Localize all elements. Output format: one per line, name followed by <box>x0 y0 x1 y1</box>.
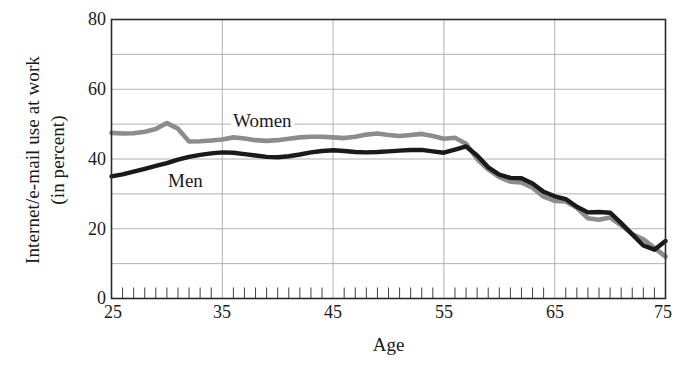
x-tick-label-75: 75 <box>641 303 685 321</box>
x-tick-label-35: 35 <box>200 303 244 321</box>
x-axis-tick-labels: 25 35 45 55 65 75 <box>0 0 686 375</box>
x-tick-label-25: 25 <box>91 303 135 321</box>
x-axis-title: Age <box>111 334 666 356</box>
series-label-women: Women <box>231 110 294 132</box>
x-tick-label-65: 65 <box>533 303 577 321</box>
x-tick-label-45: 45 <box>311 303 355 321</box>
x-tick-label-55: 55 <box>422 303 466 321</box>
series-label-men: Men <box>166 170 205 192</box>
chart-figure: Internet/e-mail use at work (in percent)… <box>0 0 686 375</box>
